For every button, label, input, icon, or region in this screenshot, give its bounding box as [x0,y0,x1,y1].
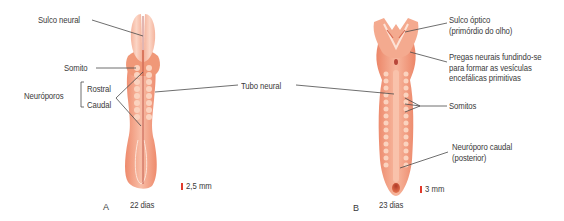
label-neuroporo-caudal: Neuróporo caudal (posterior) [452,142,512,163]
scale-bar-icon [181,183,183,190]
embryo-diagram: Sulco neural Somito Neuróporos Rostral C… [0,0,564,221]
label-somitos: Somitos [449,101,476,112]
panel-letter-b: B [353,203,359,213]
label-caudal: Caudal [87,100,111,111]
label-pregas-neurais: Pregas neurais fundindo-se para formar a… [449,52,541,84]
scale-bar-b-label: 3 mm [425,184,444,194]
scale-bar-icon [420,186,422,193]
label-sulco-optico: Sulco óptico (primórdio do olho) [449,15,512,36]
label-neuroporos: Neuróporos [24,91,64,102]
scale-bar-a: 2,5 mm [181,181,216,191]
label-sulco-neural: Sulco neural [38,15,80,26]
label-tubo-neural: Tubo neural [241,81,281,92]
scale-bar-a-label: 2,5 mm [186,181,212,191]
embryo-b [374,18,419,196]
panel-age-b: 23 dias [379,200,403,211]
scale-bar-b: 3 mm [420,184,448,194]
panel-age-a: 22 dias [130,200,154,211]
label-somito: Somito [64,63,88,74]
label-rostral: Rostral [87,84,111,95]
embryo-a [125,14,160,189]
panel-letter-a: A [103,202,109,212]
